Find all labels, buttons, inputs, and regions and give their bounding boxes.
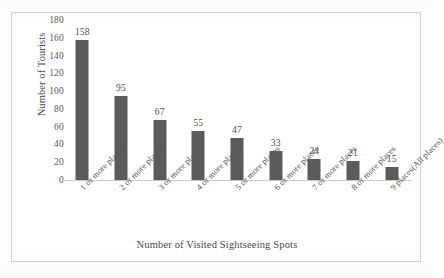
bar [76,40,89,180]
y-axis-tick-label: 80 [38,104,64,114]
bar-group: 158 [63,20,102,180]
y-axis-tick-label: 180 [38,15,64,25]
y-axis-tick-label: 160 [38,33,64,43]
y-axis-tick-labels: 020406080100120140160180 [38,13,64,191]
bar-value-label: 67 [155,107,165,117]
y-axis-tick-label: 100 [38,86,64,96]
x-axis-title: Number of Visited Sightseeing Spots [12,239,422,250]
bar-value-label: 55 [193,118,203,128]
chart-plot-frame: Number of Tourists 020406080100120140160… [11,12,421,262]
bar [114,96,127,180]
y-axis-tick-label: 120 [38,68,64,78]
bar-value-label: 47 [232,125,242,135]
y-axis-tick-label: 20 [38,157,64,167]
y-axis-tick-label: 140 [38,51,64,61]
y-axis-tick-label: 60 [38,122,64,132]
y-axis-tick-label: 0 [38,175,64,185]
bar-value-label: 95 [116,83,126,93]
bar-value-label: 158 [75,27,90,37]
y-axis-tick-label: 40 [38,139,64,149]
